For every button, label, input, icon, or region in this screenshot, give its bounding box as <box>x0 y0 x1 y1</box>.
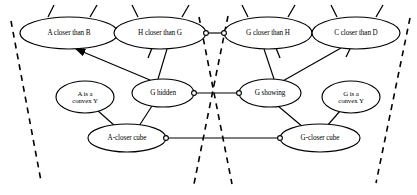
edge-aconvex-acube <box>97 110 115 126</box>
node-label-line: G is a <box>343 89 359 96</box>
stub-hg-left <box>132 5 138 17</box>
node-g-closer-than-h[interactable]: G closer than H <box>224 17 312 49</box>
node-label-line: convex Y <box>72 97 98 104</box>
node-label-line: convex Y <box>338 97 364 104</box>
node-label: G-closer cube <box>301 134 340 142</box>
node-label: H closer than G <box>138 29 182 37</box>
graph-svg: A closer than BH closer than GG closer t… <box>0 0 417 195</box>
node-h-closer-than-g[interactable]: H closer than G <box>114 17 206 49</box>
stub-gh-left <box>242 5 248 17</box>
edge-hg-ghidden <box>158 49 167 79</box>
edge-hg-gh-port-end <box>222 31 227 36</box>
node-label: G closer than H <box>246 29 290 37</box>
edge-acube-gcube-port-start <box>164 136 169 141</box>
node-label: A-closer cube <box>108 134 147 142</box>
edge-gh-gshowing <box>264 49 274 79</box>
edge-acube-gcube-port-end <box>278 136 283 141</box>
node-g-showing[interactable]: G showing <box>239 79 301 107</box>
diagram-canvas: A closer than BH closer than GG closer t… <box>0 0 417 195</box>
node-g-closer-cube[interactable]: G-closer cube <box>280 124 360 152</box>
node-c-closer-than-d[interactable]: C closer than D <box>312 17 400 49</box>
edge-cd-gshowing <box>281 48 341 82</box>
nodes-layer: A closer than BH closer than GG closer t… <box>20 17 400 152</box>
edge-ghidden-gshowing-port-start <box>192 91 197 96</box>
edge-ghidden-gshowing-port-end <box>237 91 242 96</box>
edge-gshowing-gcube <box>278 106 303 127</box>
node-g-hidden[interactable]: G hidden <box>132 79 194 107</box>
node-label: G hidden <box>150 89 176 97</box>
stub-ab-left <box>48 5 54 17</box>
node-a-closer-than-b[interactable]: A closer than B <box>20 17 118 49</box>
node-g-is-a-convex-y[interactable]: G is aconvex Y <box>322 81 380 113</box>
stub-gh-right <box>288 5 295 17</box>
node-label: A closer than B <box>47 29 90 37</box>
stub-cd-right <box>376 5 383 17</box>
edge-ghidden-ab <box>76 49 150 80</box>
stub-cd-bottom <box>346 49 350 57</box>
node-a-is-a-convex-y[interactable]: A is aconvex Y <box>56 81 114 113</box>
stub-cd-left <box>331 5 337 17</box>
cut-line-mid-left <box>199 17 232 184</box>
edges-layer <box>76 33 341 138</box>
edge-hg-gh-port-start <box>204 31 209 36</box>
node-label: C closer than D <box>334 29 377 37</box>
stub-hg-right <box>182 5 189 17</box>
node-label-line: A is a <box>77 89 92 96</box>
node-a-closer-cube[interactable]: A-closer cube <box>88 124 166 152</box>
node-label: G showing <box>255 89 286 97</box>
stub-gh-bottom <box>276 48 280 58</box>
stub-ab-right <box>90 5 97 17</box>
stub-hg-bottom <box>148 48 152 58</box>
edge-ghidden-acube <box>139 106 152 126</box>
